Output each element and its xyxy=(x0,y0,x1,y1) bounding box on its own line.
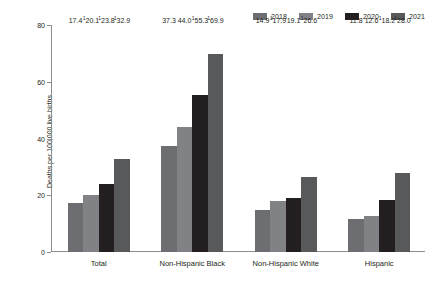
bar-non-hispanic-white-2018[interactable]: 14.9 xyxy=(255,25,271,252)
bar-total-2019[interactable]: 120.1 xyxy=(83,25,99,252)
bar-value-text: 12.6 xyxy=(365,17,379,24)
x-axis-category-label: Non-Hispanic White xyxy=(239,259,333,268)
bar-value-label: 17.4 xyxy=(69,17,83,24)
bar-non-hispanic-white-2021[interactable]: 126.6 xyxy=(301,25,317,252)
bar-non-hispanic-black-2021[interactable]: 169.9 xyxy=(208,25,224,252)
bar-non-hispanic-white-2020[interactable]: 19.1 xyxy=(286,25,302,252)
legend-label-2021: 2021 xyxy=(409,13,425,20)
bar-total-2021[interactable]: 132.9 xyxy=(114,25,130,252)
bar-rect xyxy=(177,127,193,252)
bar-total-2020[interactable]: 123.8 xyxy=(99,25,115,252)
bar-non-hispanic-black-2018[interactable]: 37.3 xyxy=(161,25,177,252)
bar-non-hispanic-white-2019[interactable]: 117.9 xyxy=(270,25,286,252)
bar-group-total: 17.4120.1123.8132.9Total xyxy=(52,25,146,252)
bar-group-non-hispanic-white: 14.9117.919.1126.6Non-Hispanic White xyxy=(239,25,333,252)
x-axis-category-label: Hispanic xyxy=(333,259,427,268)
bar-rect xyxy=(99,184,115,252)
bar-value-label: 120.1 xyxy=(83,17,99,24)
y-tick-label: 80 xyxy=(37,22,45,29)
bar-value-label: 44.0 xyxy=(178,17,192,24)
bar-value-text: 32.9 xyxy=(117,17,131,24)
bar-rect xyxy=(270,201,286,252)
bar-value-text: 44.0 xyxy=(178,17,192,24)
bar-hispanic-2019[interactable]: 12.6 xyxy=(364,25,380,252)
bar-value-text: 37.3 xyxy=(162,17,176,24)
bar-value-label: 11.8 xyxy=(349,17,362,24)
y-tick-mark xyxy=(47,25,51,26)
y-tick-label: 20 xyxy=(37,192,45,199)
x-axis-category-label: Total xyxy=(52,259,146,268)
bar-non-hispanic-black-2020[interactable]: 155.3 xyxy=(192,25,208,252)
maternal-mortality-bar-chart: 2018201920202021 Deaths per 100,000 live… xyxy=(0,0,439,281)
plot-area: 806040200 17.4120.1123.8132.9Total37.344… xyxy=(51,25,425,252)
bar-value-text: 19.1 xyxy=(287,17,301,24)
bar-value-text: 18.2 xyxy=(382,17,396,24)
bar-value-label: 19.1 xyxy=(287,17,301,24)
bar-rect xyxy=(395,173,411,252)
bar-rect xyxy=(68,203,84,252)
y-tick-mark xyxy=(47,252,51,253)
bar-hispanic-2021[interactable]: 128.0 xyxy=(395,25,411,252)
bar-value-text: 28.0 xyxy=(397,17,411,24)
bar-rect xyxy=(348,219,364,252)
bar-value-text: 20.1 xyxy=(86,17,100,24)
bar-group-non-hispanic-black: 37.344.0155.3169.9Non-Hispanic Black xyxy=(146,25,240,252)
legend-label-2019: 2019 xyxy=(317,13,333,20)
bar-group-bars: 11.812.6118.2128.0 xyxy=(333,25,427,252)
bar-value-label: 117.9 xyxy=(270,17,286,24)
bar-value-text: 23.8 xyxy=(101,17,115,24)
bar-value-text: 14.9 xyxy=(256,17,270,24)
bar-value-label: 14.9 xyxy=(256,17,270,24)
x-axis-category-label: Non-Hispanic Black xyxy=(146,259,240,268)
bar-group-bars: 14.9117.919.1126.6 xyxy=(239,25,333,252)
bar-rect xyxy=(208,54,224,252)
bar-value-label: 155.3 xyxy=(192,17,208,24)
bar-value-label: 12.6 xyxy=(365,17,379,24)
bar-value-text: 17.4 xyxy=(69,17,83,24)
bar-hispanic-2018[interactable]: 11.8 xyxy=(348,25,364,252)
bar-value-text: 69.9 xyxy=(210,17,224,24)
bar-rect xyxy=(286,198,302,252)
bar-hispanic-2020[interactable]: 118.2 xyxy=(379,25,395,252)
bar-rect xyxy=(192,95,208,252)
bar-value-label: 128.0 xyxy=(394,17,410,24)
bar-total-2018[interactable]: 17.4 xyxy=(68,25,84,252)
bar-value-label: 37.3 xyxy=(162,17,176,24)
y-tick-mark xyxy=(47,195,51,196)
bar-groups: 17.4120.1123.8132.9Total37.344.0155.3169… xyxy=(52,25,425,252)
y-tick-label: 60 xyxy=(37,78,45,85)
bar-group-bars: 17.4120.1123.8132.9 xyxy=(52,25,146,252)
bar-rect xyxy=(364,216,380,252)
bar-rect xyxy=(379,200,395,252)
bar-value-label: 169.9 xyxy=(207,17,223,24)
y-tick-label: 0 xyxy=(41,249,45,256)
bar-value-label: 126.6 xyxy=(301,17,317,24)
bar-group-hispanic: 11.812.6118.2128.0Hispanic xyxy=(333,25,427,252)
bar-value-text: 26.6 xyxy=(304,17,318,24)
bar-rect xyxy=(161,146,177,252)
bar-value-label: 118.2 xyxy=(379,17,395,24)
bar-value-label: 123.8 xyxy=(98,17,114,24)
y-tick-label: 40 xyxy=(37,135,45,142)
bar-value-text: 55.3 xyxy=(195,17,209,24)
y-tick-mark xyxy=(47,82,51,83)
bar-rect xyxy=(301,177,317,252)
bar-value-text: 11.8 xyxy=(349,17,362,24)
bar-rect xyxy=(114,159,130,252)
bar-group-bars: 37.344.0155.3169.9 xyxy=(146,25,240,252)
bar-value-label: 132.9 xyxy=(114,17,130,24)
bar-non-hispanic-black-2019[interactable]: 44.0 xyxy=(177,25,193,252)
bar-rect xyxy=(255,210,271,252)
bar-rect xyxy=(83,195,99,252)
bar-value-text: 17.9 xyxy=(273,17,287,24)
y-tick-mark xyxy=(47,139,51,140)
